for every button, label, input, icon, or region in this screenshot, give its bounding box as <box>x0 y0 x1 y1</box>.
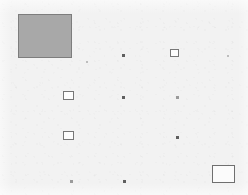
marker-8[interactable] <box>86 61 88 63</box>
marker-1[interactable] <box>122 54 125 57</box>
marker-7[interactable] <box>123 180 126 183</box>
region-open-lower-left[interactable] <box>63 131 74 140</box>
marker-3[interactable] <box>122 96 125 99</box>
marker-4[interactable] <box>176 96 179 99</box>
marker-2[interactable] <box>227 55 229 57</box>
region-open-top-right[interactable] <box>170 49 179 57</box>
region-open-mid-left[interactable] <box>63 91 74 100</box>
annotated-region-canvas[interactable] <box>0 0 248 195</box>
region-open-bottom-right[interactable] <box>212 165 235 183</box>
region-filled-large[interactable] <box>18 14 72 58</box>
marker-5[interactable] <box>176 136 179 139</box>
marker-6[interactable] <box>70 180 73 183</box>
